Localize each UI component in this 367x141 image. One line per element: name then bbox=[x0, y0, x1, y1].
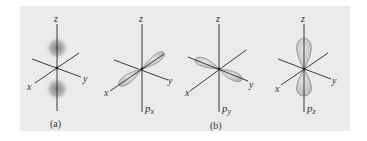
z-axis-label: z bbox=[215, 13, 220, 24]
z-axis-label: z bbox=[300, 13, 305, 24]
orbital-label-px: px bbox=[144, 102, 155, 116]
x-axis-label: x bbox=[274, 83, 280, 94]
orbital-label-pz: pz bbox=[306, 102, 317, 116]
y-axis-label: y bbox=[82, 73, 88, 84]
x-axis bbox=[110, 69, 142, 91]
origin bbox=[218, 68, 221, 71]
origin bbox=[303, 68, 306, 71]
y-axis-label: y bbox=[167, 75, 173, 86]
panel-pz: z x y pz bbox=[274, 13, 337, 116]
origin bbox=[141, 68, 144, 71]
y-axis-label: y bbox=[248, 79, 254, 90]
z-axis-label: z bbox=[138, 13, 143, 24]
caption-a: (a) bbox=[50, 118, 61, 130]
panel-px: z x y px bbox=[103, 13, 173, 116]
panel-py: z x y py (b) bbox=[184, 13, 254, 132]
origin bbox=[56, 67, 59, 70]
x-axis-label: x bbox=[26, 81, 32, 92]
orbital-lobe-positive bbox=[195, 57, 219, 69]
x-axis-label: x bbox=[103, 87, 109, 98]
y-axis-label: y bbox=[331, 75, 337, 86]
z-axis-label: z bbox=[53, 13, 58, 24]
x-axis bbox=[190, 50, 246, 91]
panel-a: z x y (a) bbox=[26, 13, 88, 130]
x-axis-label: x bbox=[184, 87, 190, 98]
orbital-label-py: py bbox=[221, 102, 232, 116]
caption-b: (b) bbox=[210, 120, 222, 132]
p-orbitals-figure: z x y (a) z x y px z x y py (b) bbox=[0, 0, 367, 141]
